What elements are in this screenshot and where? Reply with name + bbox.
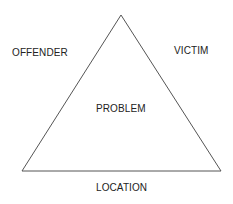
problem-label: PROBLEM bbox=[96, 103, 146, 114]
triangle-shape bbox=[0, 0, 233, 204]
problem-triangle-diagram: OFFENDER VICTIM PROBLEM LOCATION bbox=[0, 0, 233, 204]
victim-label: VICTIM bbox=[174, 45, 209, 56]
location-label: LOCATION bbox=[96, 182, 147, 193]
offender-label: OFFENDER bbox=[12, 47, 68, 58]
